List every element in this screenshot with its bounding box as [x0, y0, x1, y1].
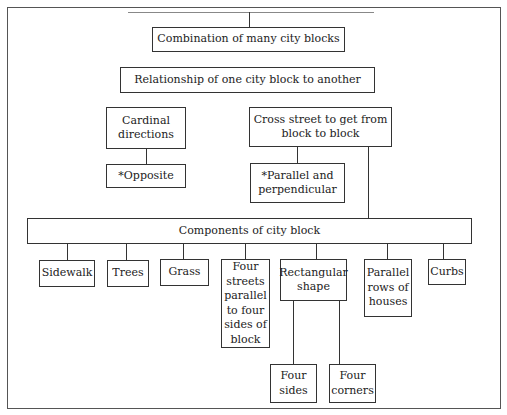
node-label: Four corners [331, 369, 374, 398]
node-label: Rectangular shape [279, 266, 347, 295]
node-label: Parallel rows of houses [367, 266, 409, 310]
connector-line [183, 244, 184, 260]
connector-line [368, 147, 369, 218]
node-cross-street: Cross street to get from block to block [249, 107, 392, 147]
node-label: Sidewalk [42, 266, 93, 281]
node-grass: Grass [160, 259, 209, 286]
connector-line [249, 12, 250, 27]
node-parallel-perpendicular: *Parallel and perpendicular [250, 163, 345, 203]
connector-line [339, 301, 340, 364]
node-label: Components of city block [179, 224, 320, 239]
connector-line [67, 244, 68, 260]
node-label: Four streets parallel to four sides of b… [224, 260, 267, 347]
node-four-streets: Four streets parallel to four sides of b… [221, 259, 270, 348]
node-curbs: Curbs [428, 259, 466, 285]
node-rectangular-shape: Rectangular shape [280, 259, 347, 301]
connector-line [126, 244, 127, 260]
node-trees: Trees [107, 260, 149, 287]
node-label: *Parallel and perpendicular [253, 169, 342, 198]
connector-line [387, 244, 388, 259]
node-label: Cross street to get from block to block [252, 113, 389, 142]
node-label: Relationship of one city block to anothe… [134, 73, 361, 88]
connector-line [245, 244, 246, 259]
connector-line [146, 149, 147, 164]
node-label: Curbs [430, 265, 463, 280]
node-four-sides: Four sides [270, 364, 317, 403]
node-label: Trees [112, 266, 143, 281]
node-components: Components of city block [27, 218, 472, 244]
connector-line [297, 147, 298, 163]
node-opposite: *Opposite [106, 164, 186, 188]
connector-line [293, 301, 294, 364]
node-label: Cardinal directions [109, 114, 183, 143]
node-relationship: Relationship of one city block to anothe… [120, 67, 375, 93]
node-label: *Opposite [118, 169, 173, 184]
node-combination: Combination of many city blocks [152, 27, 345, 52]
node-four-corners: Four corners [329, 364, 376, 403]
node-parallel-rows: Parallel rows of houses [364, 259, 412, 317]
node-label: Grass [169, 265, 201, 280]
connector-line [316, 244, 317, 259]
connector-line [443, 244, 444, 259]
node-label: Four sides [273, 369, 314, 398]
node-cardinal-directions: Cardinal directions [106, 107, 186, 149]
node-sidewalk: Sidewalk [39, 260, 95, 287]
top-connector-line [128, 12, 374, 13]
node-label: Combination of many city blocks [157, 32, 339, 47]
